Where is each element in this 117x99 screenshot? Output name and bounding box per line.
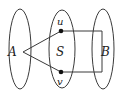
label-a: A	[7, 45, 17, 59]
label-b: B	[100, 45, 110, 59]
label-u: u	[57, 16, 63, 27]
diagram-canvas: A S B u v	[0, 0, 117, 99]
vertex-u-dot	[59, 29, 64, 34]
edge-u-b-v	[61, 31, 102, 72]
vertex-v-dot	[59, 70, 64, 75]
label-v: v	[57, 76, 63, 87]
diagram-svg: A S B u v	[0, 0, 117, 99]
label-s: S	[56, 45, 64, 59]
